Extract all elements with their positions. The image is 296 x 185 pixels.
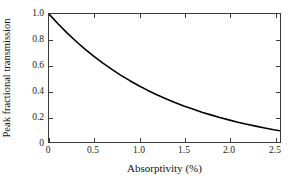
x-tick-label-0: 0	[31, 145, 65, 156]
data-series-line	[49, 14, 280, 131]
x-tick-label-1.5: 1.5	[167, 145, 201, 156]
y-tick-label-1.0: 1.0	[14, 8, 44, 18]
y-tick-label-0.2: 0.2	[14, 112, 44, 122]
y-tick-label-0.6: 0.6	[14, 60, 44, 70]
x-tick-label-2.0: 2.0	[212, 145, 246, 156]
y-tick-label-0.8: 0.8	[14, 34, 44, 44]
transmission-curve	[49, 14, 280, 142]
figure-canvas: Peak fractional transmission 1.0 0.8 0.6…	[0, 0, 296, 185]
x-tick-label-2.5: 2.5	[258, 145, 292, 156]
x-tick-label-0.5: 0.5	[76, 145, 110, 156]
plot-area	[48, 13, 281, 143]
y-tick-label-0.4: 0.4	[14, 86, 44, 96]
y-axis-label-container: Peak fractional transmission	[0, 13, 14, 143]
x-axis-label: Absorptivity (%)	[48, 162, 281, 175]
y-axis-label: Peak fractional transmission	[1, 19, 13, 138]
x-tick-label-1.0: 1.0	[122, 145, 156, 156]
